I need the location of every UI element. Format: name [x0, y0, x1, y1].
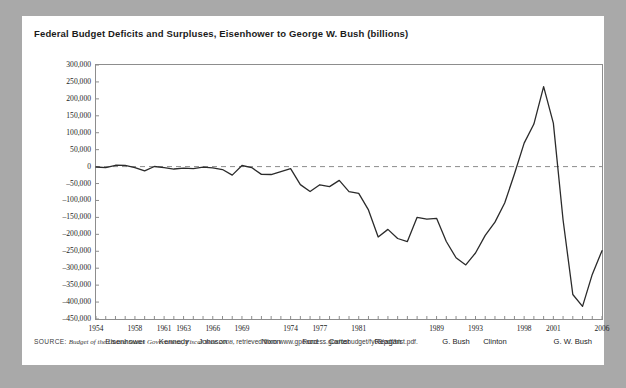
source-label: SOURCE: [34, 338, 67, 345]
bottom-margin-band [0, 365, 626, 388]
y-axis-tick-label: 0 [35, 162, 91, 171]
source-citation: Budget of the United States Government, … [69, 338, 235, 346]
y-axis-tick-label: –150,000 [35, 212, 91, 221]
y-axis-tick-label: 200,000 [35, 94, 91, 103]
x-axis-tick-label: 1998 [517, 324, 532, 333]
y-axis-tick-label: 300,000 [35, 60, 91, 69]
x-axis-tick-label: 1977 [312, 324, 327, 333]
y-axis-tick-label: –300,000 [35, 263, 91, 272]
x-axis-tick-label: 1981 [351, 324, 366, 333]
chart-plot-area [95, 64, 603, 320]
x-axis-tick-label: 1966 [205, 324, 220, 333]
x-axis-tick-label: 2006 [595, 324, 610, 333]
y-axis-tick-label: –350,000 [35, 280, 91, 289]
source-note: SOURCE: Budget of the United States Gove… [34, 338, 418, 346]
x-axis-tick-label: 1963 [176, 324, 191, 333]
x-axis-tick-label: 2001 [546, 324, 561, 333]
president-label: G. Bush [442, 337, 469, 346]
y-axis-tick-label: 100,000 [35, 128, 91, 137]
source-url: retrieved from www.gpoaccess.gov/usbudge… [236, 338, 417, 345]
y-axis-tick-label: –50,000 [35, 179, 91, 188]
y-axis-tick-label: –250,000 [35, 246, 91, 255]
president-label: Clinton [483, 337, 507, 346]
y-axis-tick-label: –450,000 [35, 314, 91, 323]
x-axis-tick-label: 1989 [429, 324, 444, 333]
y-axis-tick-label: 50,000 [35, 145, 91, 154]
y-axis-tick-label: 150,000 [35, 111, 91, 120]
x-axis-tick-label: 1954 [89, 324, 104, 333]
figure-root: Federal Budget Deficits and Surpluses, E… [0, 0, 626, 388]
x-axis-tick-label: 1993 [468, 324, 483, 333]
budget-balance-line [96, 87, 602, 307]
y-axis-tick-label: –200,000 [35, 229, 91, 238]
x-axis-tick-label: 1961 [157, 324, 172, 333]
figure-content: Federal Budget Deficits and Surpluses, E… [22, 16, 604, 365]
x-axis-tick-label: 1969 [235, 324, 250, 333]
y-axis-tick-label: –400,000 [35, 297, 91, 306]
president-label: G. W. Bush [554, 337, 592, 346]
y-axis-tick-label: –100,000 [35, 195, 91, 204]
y-axis-tick-label: 250,000 [35, 77, 91, 86]
x-axis-tick-label: 1958 [128, 324, 143, 333]
x-axis-tick-label: 1974 [283, 324, 298, 333]
figure-title: Federal Budget Deficits and Surpluses, E… [34, 28, 408, 39]
